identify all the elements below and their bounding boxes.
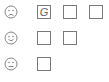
answer-box[interactable]	[37, 57, 51, 71]
sad-face-icon	[4, 5, 18, 19]
answer-box[interactable]	[63, 5, 77, 19]
neutral-face-icon	[4, 57, 18, 71]
answer-box[interactable]	[63, 31, 77, 45]
answer-box[interactable]	[89, 5, 103, 19]
answer-box[interactable]: G	[37, 5, 51, 19]
answer-box[interactable]	[37, 31, 51, 45]
happy-face-icon	[4, 31, 18, 45]
